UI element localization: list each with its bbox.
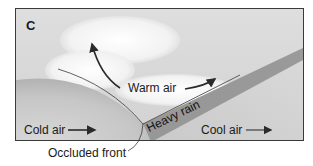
occluded-front-label: Occluded front — [48, 147, 126, 159]
panel-label: C — [26, 18, 35, 33]
cold-air-label: Cold air — [24, 124, 65, 136]
warm-air-label: Warm air — [128, 82, 176, 94]
cool-air-label: Cool air — [201, 124, 242, 136]
